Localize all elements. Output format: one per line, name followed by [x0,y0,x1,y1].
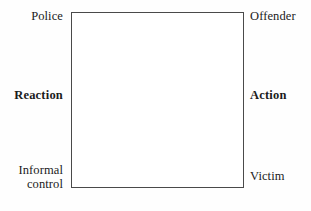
central-square [71,12,244,188]
label-middle-right-action: Action [250,89,287,103]
label-middle-left-reaction: Reaction [14,89,63,103]
label-top-left-police: Police [31,10,63,24]
label-bottom-left-informal-control: Informal control [18,164,63,191]
label-bottom-right-victim: Victim [250,170,285,184]
label-top-right-offender: Offender [250,10,296,24]
diagram-canvas: Police Offender Reaction Action Informal… [0,0,311,211]
